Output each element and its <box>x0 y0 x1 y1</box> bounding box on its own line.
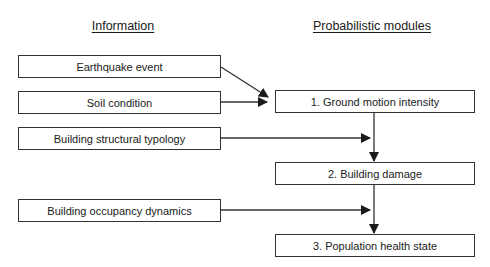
info-box-soil-condition: Soil condition <box>18 91 221 114</box>
info-box-building-occupancy-dynamics: Building occupancy dynamics <box>18 199 221 222</box>
info-box-building-structural-typology: Building structural typology <box>18 127 221 150</box>
module-box-ground-motion-intensity: 1. Ground motion intensity <box>275 90 475 113</box>
info-box-label: Building structural typology <box>54 133 185 145</box>
info-box-earthquake-event: Earthquake event <box>18 55 221 78</box>
information-column-header: Information <box>92 19 155 33</box>
arrow-earthquake-to-ground-motion <box>221 67 268 97</box>
info-box-label: Soil condition <box>87 97 152 109</box>
module-box-label: 3. Population health state <box>313 240 437 252</box>
module-box-population-health-state: 3. Population health state <box>275 234 475 257</box>
info-box-label: Building occupancy dynamics <box>47 205 191 217</box>
module-box-label: 1. Ground motion intensity <box>311 96 439 108</box>
module-box-building-damage: 2. Building damage <box>275 162 475 185</box>
info-box-label: Earthquake event <box>76 61 162 73</box>
modules-column-header: Probabilistic modules <box>313 19 431 33</box>
module-box-label: 2. Building damage <box>328 168 422 180</box>
